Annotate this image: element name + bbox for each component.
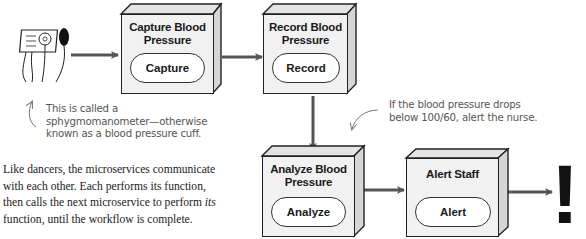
box-front: Alert Staff Alert xyxy=(406,158,499,237)
node-record-blood-pressure: Record Blood Pressure Record xyxy=(263,4,356,94)
caption-line3-text: then calls the next microservice to perf… xyxy=(3,196,205,209)
alert-exclamation-icon: ! xyxy=(551,152,579,236)
node-title-line1: Analyze Blood xyxy=(270,163,347,175)
alert-action-button[interactable]: Alert xyxy=(415,197,491,227)
pointer-arrow-device-note xyxy=(29,102,36,127)
node-title: Capture Blood Pressure xyxy=(122,21,213,47)
node-capture-blood-pressure: Capture Blood Pressure Capture xyxy=(121,4,221,94)
threshold-note-line2: below 100/60, alert the nurse. xyxy=(389,112,537,125)
caption-emphasis: its xyxy=(205,196,216,209)
box-front: Capture Blood Pressure Capture xyxy=(121,14,214,94)
sphygmomanometer-icon xyxy=(14,24,84,84)
caption-line1: Like dancers, the microservices communic… xyxy=(3,162,253,179)
pointer-arrow-threshold-note xyxy=(352,110,378,129)
caption-line4: function, until the workflow is complete… xyxy=(3,212,253,229)
device-annotation: This is called a sphygmomanometer—otherw… xyxy=(46,103,207,141)
node-title-line2: Pressure xyxy=(285,176,333,188)
node-analyze-blood-pressure: Analyze Blood Pressure Analyze xyxy=(262,146,364,237)
box-front: Record Blood Pressure Record xyxy=(263,14,348,94)
node-title: Analyze Blood Pressure xyxy=(263,163,354,189)
node-alert-staff: Alert Staff Alert xyxy=(406,149,508,237)
caption-line2: with each other. Each performs its funct… xyxy=(3,179,253,196)
node-title-line1: Capture Blood xyxy=(129,21,206,33)
record-action-button[interactable]: Record xyxy=(272,53,340,83)
node-title: Alert Staff xyxy=(407,168,498,181)
box-front: Analyze Blood Pressure Analyze xyxy=(262,156,355,237)
caption-paragraph: Like dancers, the microservices communic… xyxy=(3,162,253,228)
caption-line3: then calls the next microservice to perf… xyxy=(3,195,253,212)
capture-action-button[interactable]: Capture xyxy=(130,53,205,83)
threshold-annotation: If the blood pressure drops below 100/60… xyxy=(389,99,537,124)
node-title-line2: Pressure xyxy=(282,34,330,46)
node-title: Record Blood Pressure xyxy=(264,21,347,47)
analyze-action-button[interactable]: Analyze xyxy=(271,197,346,227)
node-title-line2: Pressure xyxy=(144,34,192,46)
device-note-line1: This is called a xyxy=(46,103,207,116)
threshold-note-line1: If the blood pressure drops xyxy=(389,99,537,112)
device-note-line2: sphygmomanometer—otherwise xyxy=(46,116,207,129)
node-title-line1: Record Blood xyxy=(269,21,342,33)
node-title-line1: Alert Staff xyxy=(426,168,479,180)
device-note-line3: known as a blood pressure cuff. xyxy=(46,128,207,141)
